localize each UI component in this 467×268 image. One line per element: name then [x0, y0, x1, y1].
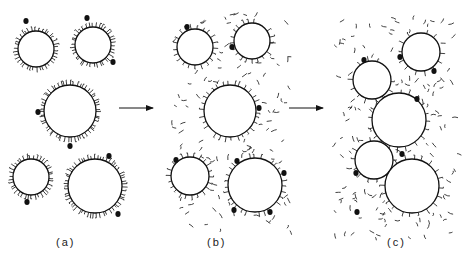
surfactant-fragment: [344, 232, 345, 237]
surfactant-fragment: [351, 99, 355, 102]
surfactant-fragment: [452, 117, 458, 118]
panel-label-c: (c): [387, 236, 406, 248]
surfactant-hair: [94, 120, 98, 121]
surfactant-hair: [244, 85, 246, 89]
surfactant-hair: [167, 168, 172, 170]
surfactant-fragment: [388, 208, 391, 212]
surfactant-hair: [206, 163, 211, 166]
surfactant-fragment: [428, 24, 429, 27]
surfactant-fragment: [416, 222, 418, 226]
surfactant-hair: [405, 146, 406, 151]
surfactant-fragment: [428, 89, 429, 92]
granule-dot: [361, 57, 366, 63]
granule-dot: [84, 15, 89, 21]
surfactant-hair: [71, 137, 72, 142]
surfactant-hair: [235, 81, 237, 86]
surfactant-fragment: [340, 43, 344, 44]
surfactant-hair: [18, 59, 22, 62]
surfactant-hair: [405, 66, 408, 70]
surfactant-hair: [84, 85, 86, 89]
surfactant-fragment: [423, 85, 425, 89]
surfactant-hair: [10, 167, 15, 170]
surfactant-hair: [225, 137, 226, 142]
surfactant-fragment: [204, 77, 207, 81]
surfactant-hair: [435, 170, 439, 172]
surfactant-hair: [110, 39, 115, 40]
surfactant-fragment: [219, 213, 222, 218]
surfactant-hair: [380, 185, 385, 187]
surfactant-hair: [63, 81, 65, 86]
granule-dot: [256, 105, 261, 111]
surfactant-fragment: [270, 57, 274, 59]
granule-dot: [399, 151, 404, 157]
surfactant-hair: [45, 65, 47, 69]
surfactant-hair: [103, 27, 106, 30]
surfactant-fragment: [384, 219, 385, 222]
surfactant-fragment: [284, 202, 286, 205]
surfactant-hair: [244, 211, 246, 216]
surfactant-fragment: [274, 112, 280, 113]
surfactant-fragment: [424, 235, 426, 239]
surfactant-hair: [192, 195, 193, 200]
surfactant-hair: [213, 42, 218, 43]
surfactant-fragment: [342, 186, 346, 188]
surfactant-hair: [71, 80, 72, 85]
surfactant-fragment: [281, 98, 282, 102]
granule-dot: [267, 209, 272, 215]
granule-dot: [431, 68, 436, 74]
surfactant-fragment: [438, 116, 442, 117]
particle-circle: [204, 85, 256, 137]
surfactant-hair: [77, 82, 79, 86]
surfactant-fragment: [181, 100, 186, 101]
surfactant-hair: [78, 136, 79, 141]
surfactant-fragment: [369, 24, 370, 28]
surfactant-fragment: [188, 204, 194, 205]
surfactant-fragment: [217, 80, 219, 84]
surfactant-hair: [79, 159, 81, 163]
surfactant-fragment: [351, 36, 354, 37]
surfactant-hair: [110, 51, 115, 53]
surfactant-fragment: [237, 65, 241, 68]
surfactant-hair: [267, 29, 271, 32]
surfactant-hair: [40, 192, 43, 197]
surfactant-fragment: [427, 84, 430, 86]
surfactant-fragment: [350, 205, 351, 211]
surfactant-fragment: [332, 143, 335, 147]
surfactant-fragment: [248, 73, 251, 74]
surfactant-hair: [415, 142, 418, 145]
surfactant-hair: [23, 156, 25, 161]
surfactant-hair: [88, 155, 89, 160]
surfactant-fragment: [358, 109, 361, 111]
surfactant-fragment: [395, 21, 400, 23]
surfactant-fragment: [449, 232, 453, 233]
surfactant-fragment: [376, 207, 378, 210]
particle-circle: [177, 29, 213, 65]
surfactant-fragment: [354, 200, 357, 202]
surfactant-fragment: [284, 21, 288, 25]
surfactant-hair: [218, 135, 221, 140]
surfactant-hair: [41, 120, 46, 122]
surfactant-hair: [27, 154, 28, 159]
surfactant-fragment: [357, 137, 359, 142]
surfactant-fragment: [440, 214, 441, 217]
surfactant-fragment: [259, 124, 263, 125]
surfactant-hair: [208, 182, 212, 184]
granule-dot: [231, 207, 236, 213]
surfactant-fragment: [353, 193, 356, 195]
surfactant-fragment: [432, 143, 436, 148]
surfactant-hair: [201, 64, 203, 69]
surfactant-hair: [399, 41, 404, 43]
surfactant-hair: [438, 61, 442, 63]
surfactant-hair: [31, 27, 33, 32]
surfactant-fragment: [452, 34, 456, 38]
surfactant-hair: [175, 37, 179, 39]
surfactant-hair: [99, 213, 100, 218]
surfactant-hair: [209, 58, 212, 62]
surfactant-hair: [85, 132, 88, 136]
granule-dot: [115, 211, 120, 217]
panel-label-a: (a): [56, 236, 75, 248]
particle-circle: [385, 159, 439, 213]
surfactant-hair: [247, 19, 249, 23]
surfactant-hair: [94, 99, 99, 101]
surfactant-hair: [415, 70, 416, 74]
